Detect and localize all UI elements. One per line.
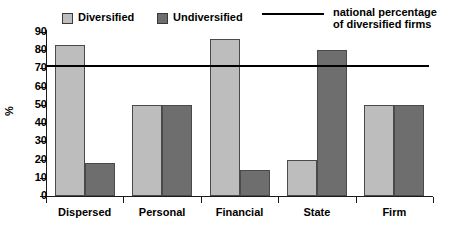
y-axis-tick-label: 20 bbox=[9, 153, 47, 165]
y-axis-tick-label: 60 bbox=[9, 80, 47, 92]
y-axis-tick-label: 30 bbox=[9, 134, 47, 146]
x-axis-tick-mark bbox=[46, 197, 47, 203]
y-axis-tick-label: 10 bbox=[9, 171, 47, 183]
bar-state-undiversified bbox=[317, 50, 347, 196]
y-axis-tick-label: 0 bbox=[9, 189, 47, 201]
y-axis-tick-label: 40 bbox=[9, 116, 47, 128]
bar-personal-diversified bbox=[132, 105, 162, 196]
plot-area: % 0102030405060708090 DispersedPersonalF… bbox=[0, 0, 454, 241]
bar-personal-undiversified bbox=[162, 105, 192, 196]
x-axis-label-personal: Personal bbox=[139, 206, 185, 218]
x-axis-label-dispersed: Dispersed bbox=[58, 206, 111, 218]
national-percentage-reference-line bbox=[46, 65, 429, 67]
x-axis-tick-mark bbox=[201, 197, 202, 203]
x-axis-tick-mark bbox=[278, 197, 279, 203]
bar-chart: Diversified Undiversified national perce… bbox=[0, 0, 454, 241]
y-axis-tick-label: 80 bbox=[9, 43, 47, 55]
x-axis-label-state: State bbox=[303, 206, 330, 218]
bar-firm-diversified bbox=[364, 105, 394, 196]
x-axis-line bbox=[46, 196, 433, 197]
x-axis-label-financial: Financial bbox=[216, 206, 264, 218]
x-axis-tick-mark bbox=[433, 197, 434, 203]
bar-firm-undiversified bbox=[394, 105, 424, 196]
bar-financial-undiversified bbox=[240, 170, 270, 196]
bar-dispersed-diversified bbox=[55, 45, 85, 196]
bar-dispersed-undiversified bbox=[85, 163, 115, 196]
y-axis-tick-label: 90 bbox=[9, 25, 47, 37]
x-axis-label-firm: Firm bbox=[382, 206, 406, 218]
y-axis-tick-label: 70 bbox=[9, 61, 47, 73]
y-axis-tick-label: 50 bbox=[9, 98, 47, 110]
x-axis-tick-mark bbox=[356, 197, 357, 203]
bar-state-diversified bbox=[287, 160, 317, 196]
bar-financial-diversified bbox=[210, 39, 240, 196]
x-axis-tick-mark bbox=[123, 197, 124, 203]
